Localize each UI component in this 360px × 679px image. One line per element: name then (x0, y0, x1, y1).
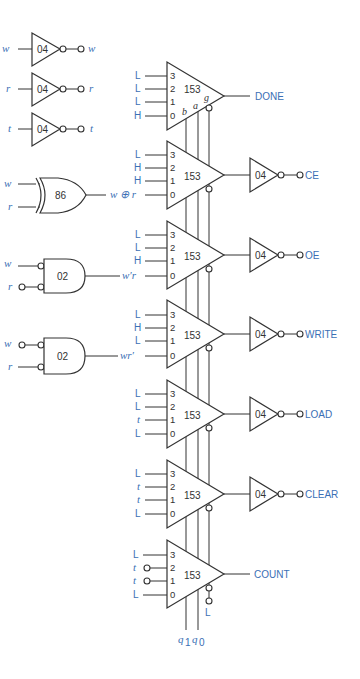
inverter-t: t 04 t (8, 113, 94, 146)
pin-label: 3 (170, 309, 175, 320)
enable-label: L (205, 607, 211, 618)
input-label-r: r (6, 82, 11, 94)
pin-label: 2 (170, 481, 175, 492)
output-done: DONE (255, 91, 284, 102)
output-label-r: r (89, 82, 94, 94)
and1-input-w: w (4, 257, 12, 269)
select-sub-q0: 0 (199, 637, 205, 648)
mux-input-2: L (135, 401, 141, 412)
pin-label: 3 (170, 149, 175, 160)
mux-input-1: H (134, 255, 141, 266)
mux-input-2: H (134, 322, 141, 333)
inverter-w: w 04 w (2, 33, 96, 66)
chip-label: 153 (184, 171, 201, 182)
chip-label: 04 (37, 44, 49, 55)
inverter-r: r 04 r (6, 73, 94, 106)
pin-label: 1 (170, 494, 175, 505)
pin-label: 0 (170, 508, 175, 519)
xor-input-w: w (4, 177, 12, 189)
chip-label: 153 (184, 490, 201, 501)
xor-input-r: r (8, 200, 13, 212)
pin-label: 0 (170, 589, 175, 600)
output-label-w: w (88, 42, 96, 54)
output-count: COUNT (254, 569, 290, 580)
chip-label: 153 (184, 251, 201, 262)
and2-input-r: r (8, 360, 13, 372)
pin-label: 1 (170, 175, 175, 186)
and1-input-r: r (8, 280, 13, 292)
and-gate-2: w r 02 wr′ (4, 337, 135, 374)
chip-label: 04 (255, 329, 267, 340)
chip-label: 04 (37, 84, 49, 95)
mux-input-1: t (133, 574, 137, 586)
pin-label: 2 (170, 162, 175, 173)
and-gate-1: w r 02 w′r (4, 257, 137, 293)
mux-input-3: L (135, 388, 141, 399)
pin-label: 0 (170, 350, 175, 361)
mux-input-0: L (135, 508, 141, 519)
output-ce: CE (305, 170, 319, 181)
pin-label: 2 (170, 562, 175, 573)
and1-output-label: w′r (122, 269, 137, 281)
chip-label: 04 (255, 409, 267, 420)
chip-label: 02 (57, 351, 69, 362)
mux-input-1: t (137, 413, 141, 425)
mux-input-3: L (135, 309, 141, 320)
mux-input-2: t (137, 480, 141, 492)
and2-output-label: wr′ (120, 349, 135, 361)
select-label-q1: q (178, 633, 184, 645)
pin-label: 0 (170, 428, 175, 439)
chip-label: 153 (184, 84, 201, 95)
input-label-t: t (8, 122, 12, 134)
mux-input-2: H (134, 162, 141, 173)
pin-label: 2 (170, 322, 175, 333)
pin-label: 2 (170, 401, 175, 412)
output-load: LOAD (305, 409, 332, 420)
pin-label: 2 (170, 242, 175, 253)
mux-input-1: t (137, 493, 141, 505)
pin-label: 1 (170, 575, 175, 586)
pin-label: 1 (170, 414, 175, 425)
input-label-w: w (2, 42, 10, 54)
mux-input-0: L (135, 428, 141, 439)
chip-label: 153 (184, 410, 201, 421)
mux-input-0: H (134, 110, 141, 121)
mux-input-2: L (135, 242, 141, 253)
mux-input-3: L (135, 149, 141, 160)
select-label-q0: q (192, 633, 198, 645)
pin-label: 3 (170, 388, 175, 399)
mux-input-3: L (135, 229, 141, 240)
mux-count: L t t L 3 2 1 0 153 COUNT (133, 540, 290, 608)
chip-label: 04 (255, 250, 267, 261)
pin-label: 3 (170, 70, 175, 81)
chip-label: 04 (255, 489, 267, 500)
mux-input-3: L (133, 549, 139, 560)
mux-load: L L t L 3 2 1 0 153 04 LOAD (135, 380, 332, 448)
chip-label: 153 (184, 570, 201, 581)
mux-input-3: L (135, 468, 141, 479)
mux-input-2: t (133, 561, 137, 573)
mux-icon (167, 62, 224, 130)
chip-label: 04 (37, 124, 49, 135)
mux-input-1: L (135, 96, 141, 107)
output-write: WRITE (305, 329, 338, 340)
mux-input-3: L (135, 70, 141, 81)
select-label-b: b (182, 106, 187, 117)
chip-label: 86 (55, 190, 67, 201)
mux-ce: L H H 3 2 1 0 153 04 CE (134, 141, 319, 209)
mux-input-0: L (133, 589, 139, 600)
pin-label: 0 (170, 189, 175, 200)
select-label-g: g (204, 92, 209, 103)
pin-label: 3 (170, 549, 175, 560)
chip-label: 153 (184, 330, 201, 341)
pin-label: 3 (170, 229, 175, 240)
chip-label: 04 (255, 170, 267, 181)
mux-input-2: L (135, 83, 141, 94)
xor-icon (36, 178, 41, 213)
mux-write: L H L 3 2 1 0 153 04 WRITE (134, 300, 338, 368)
output-clear: CLEAR (305, 489, 338, 500)
pin-label: 2 (170, 83, 175, 94)
pin-label: 0 (170, 110, 175, 121)
logic-diagram: w 04 w r 04 r t 04 t w r 86 w (0, 0, 360, 679)
pin-label: 1 (170, 96, 175, 107)
